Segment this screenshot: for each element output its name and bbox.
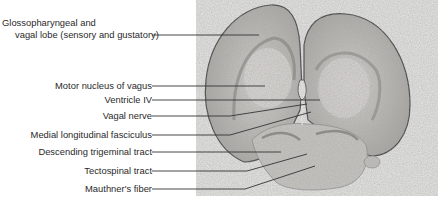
label-mauthner: Mauthner's fiber [85,183,152,194]
label-mlf: Medial longitudinal fasciculus [31,129,152,140]
label-glossopharyngeal-line1: Glossopharyngeal and [2,17,96,28]
label-tectospinal: Tectospinal tract [84,165,152,176]
leader-tectospinal [152,154,307,171]
figure: Glossopharyngeal and vagal lobe (sensory… [0,0,438,201]
leader-vagal-nerve [152,104,307,116]
label-desc-trigeminal: Descending trigeminal tract [38,146,152,157]
label-vagal-nerve: Vagal nerve [103,110,152,121]
label-motor-nucleus: Motor nucleus of vagus [55,80,152,91]
label-glossopharyngeal-line2: vagal lobe (sensory and gustatory) [15,29,159,40]
label-ventricle: Ventricle IV [105,94,152,105]
leader-mauthner [152,166,315,189]
